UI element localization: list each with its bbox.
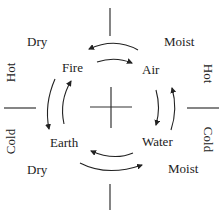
element-water: Water	[142, 135, 173, 148]
quality-right-lower: Cold	[202, 127, 215, 152]
element-fire: Fire	[62, 61, 83, 74]
element-air: Air	[142, 63, 159, 76]
quality-left-upper: Hot	[4, 63, 17, 83]
arrow-water-to-air	[171, 88, 175, 130]
four-elements-diagram: Fire Air Earth Water Dry Moist Dry Moist…	[0, 0, 221, 215]
element-earth: Earth	[50, 136, 78, 149]
arrow-earth-to-water	[80, 163, 142, 171]
arrow-air-to-water	[156, 90, 159, 125]
quality-left-lower: Cold	[4, 129, 17, 154]
quality-right-upper: Hot	[202, 64, 215, 84]
quality-bottom-right: Moist	[168, 162, 198, 175]
arrow-earth-to-fire	[63, 81, 71, 124]
quality-bottom-left: Dry	[27, 163, 47, 176]
quality-top-left: Dry	[27, 35, 47, 48]
quality-top-right: Moist	[164, 35, 194, 48]
arrow-fire-to-earth	[47, 79, 55, 129]
diagram-graphics	[0, 0, 221, 215]
arrow-air-to-fire	[89, 43, 138, 50]
arrow-fire-to-air	[97, 59, 132, 63]
arrow-water-to-earth	[91, 151, 133, 157]
